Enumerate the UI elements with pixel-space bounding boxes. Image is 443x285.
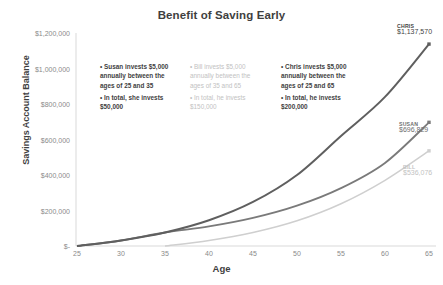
series-endpoints [427,42,430,152]
endpoint-label-chris: CHRIS $1,137,570 [397,23,432,35]
endpoint-marker-chris [427,42,430,45]
annotation-bill-line2: • In total, he invests $150,000 [190,93,268,112]
annotation-susan-line1: • Susan invests $5,000 annually between … [100,62,178,90]
chart-container: Benefit of Saving Early Savings Account … [0,0,443,285]
annotation-susan-line2: • In total, she invests $50,000 [100,93,178,112]
endpoint-label-bill-value: $536,076 [403,169,432,176]
endpoint-label-bill: BILL $536,076 [403,164,432,176]
endpoint-label-susan: SUSAN $696,829 [399,121,428,133]
annotation-chris-line2: • In total, he invests $200,000 [281,93,361,112]
endpoint-marker-bill [427,149,430,152]
endpoint-label-chris-value: $1,137,570 [397,28,432,35]
annotation-chris-line1: • Chris invests $5,000 annually between … [281,62,361,90]
line-bill [165,151,429,246]
plot-area [0,0,443,285]
endpoint-label-susan-value: $696,829 [399,126,428,133]
line-susan [77,122,429,246]
annotation-bill-line1: • Bill invests $5,000 annually between t… [190,62,268,90]
